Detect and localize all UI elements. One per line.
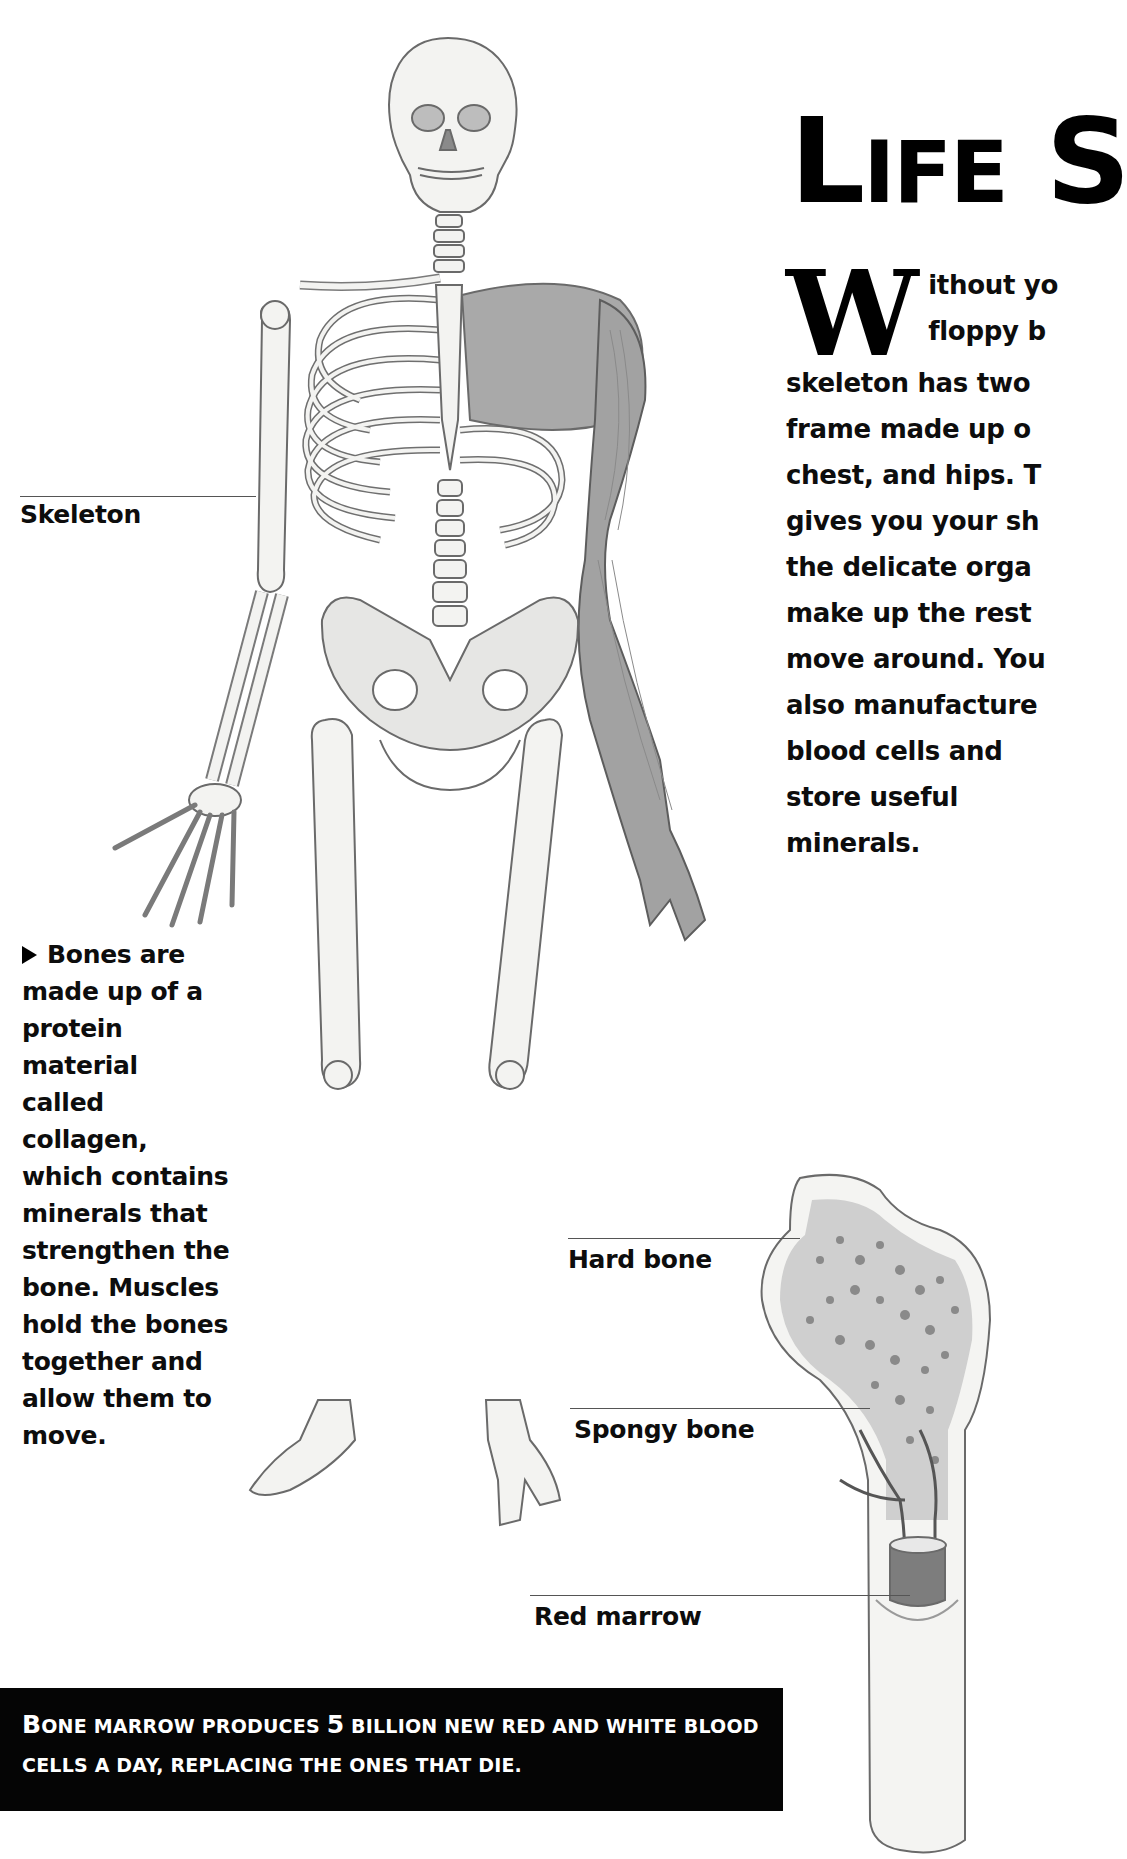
spongy-bone-label: Spongy bone: [574, 1415, 754, 1445]
fact-line-2: cells a day, replacing the ones that die…: [22, 1754, 522, 1776]
hard-bone-label: Hard bone: [568, 1245, 712, 1275]
fact-number: 5: [327, 1710, 345, 1739]
sidebar-line: together and: [22, 1343, 232, 1380]
sidebar-line: allow them to: [22, 1380, 232, 1417]
spongy-bone-leader-line: [570, 1408, 870, 1409]
sidebar-line: which contains: [22, 1158, 232, 1195]
sidebar-line: move.: [22, 1417, 232, 1454]
intro-line: blood cells and: [786, 728, 1127, 774]
page-title: LIFE S: [790, 96, 1127, 237]
red-marrow-label: Red marrow: [534, 1602, 702, 1632]
triangle-right-icon: [22, 946, 37, 964]
sidebar-line: called collagen,: [22, 1084, 232, 1158]
fact-line-1: Bone marrow produces 5 billion new red a…: [22, 1710, 759, 1739]
red-marrow-cylinder: [890, 1545, 945, 1606]
skeleton-label: Skeleton: [20, 500, 141, 530]
sidebar-line: protein material: [22, 1010, 232, 1084]
sidebar-note: Bones are made up of a protein material …: [22, 936, 232, 1454]
intro-line: minerals.: [786, 820, 1127, 866]
intro-line: frame made up o: [786, 406, 1127, 452]
intro-line: skeleton has two: [786, 360, 1127, 406]
intro-line: the delicate orga: [786, 544, 1127, 590]
intro-line: also manufacture: [786, 682, 1127, 728]
fact-box: Bone marrow produces 5 billion new red a…: [0, 1688, 783, 1811]
sidebar-line: hold the bones: [22, 1306, 232, 1343]
fact-text: billion new red and white blood: [351, 1715, 759, 1737]
fact-initial: B: [22, 1710, 41, 1739]
intro-line: store useful: [786, 774, 1127, 820]
sidebar-line: Bones are: [47, 940, 185, 969]
intro-line: gives you your sh: [786, 498, 1127, 544]
skeleton-leader-line: [20, 496, 256, 497]
title-rest: IFE: [863, 122, 1007, 222]
intro-line: chest, and hips. T: [786, 452, 1127, 498]
intro-line: move around. You: [786, 636, 1127, 682]
title-first-letter: L: [790, 92, 863, 230]
sidebar-line: minerals that: [22, 1195, 232, 1232]
sidebar-line: bone. Muscles: [22, 1269, 232, 1306]
fact-text: one marrow produces: [41, 1715, 320, 1737]
title-second-word: S: [1046, 92, 1127, 230]
drop-cap: W: [786, 268, 918, 360]
sidebar-line: strengthen the: [22, 1232, 232, 1269]
intro-paragraph: W ithout yo floppy b skeleton has two fr…: [786, 262, 1127, 866]
red-marrow-leader-line: [530, 1595, 910, 1596]
hard-bone-leader-line: [568, 1238, 800, 1239]
sidebar-line: made up of a: [22, 973, 232, 1010]
intro-line: make up the rest: [786, 590, 1127, 636]
